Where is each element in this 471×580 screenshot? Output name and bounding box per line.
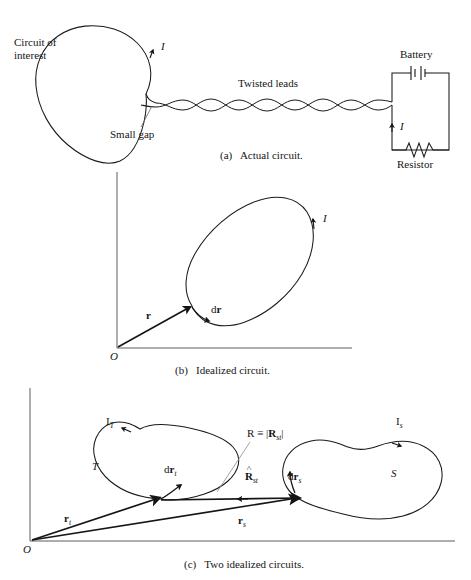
battery-label: Battery bbox=[400, 48, 432, 61]
loop-S bbox=[283, 440, 442, 519]
separation-vector-Rst bbox=[161, 498, 299, 500]
position-vector-label-rt: rt bbox=[64, 512, 71, 525]
hat-accent-icon: ˄ bbox=[246, 463, 251, 473]
caption-a: (a) Actual circuit. bbox=[220, 149, 303, 162]
physics-figure: Circuit of interest I Small gap Twisted … bbox=[0, 0, 471, 580]
figure-vector-layer bbox=[0, 0, 471, 580]
panel-b-graphics bbox=[117, 172, 352, 348]
twisted-leads-label: Twisted leads bbox=[238, 77, 298, 90]
separation-distance-definition: R ≡ |Rst| bbox=[247, 427, 283, 440]
source-circuit-right-top bbox=[392, 73, 449, 150]
loop-T-label: T bbox=[92, 460, 98, 473]
position-vector-label-b: r bbox=[146, 309, 151, 322]
origin-label-c: O bbox=[23, 543, 31, 556]
gap-wire-lower bbox=[141, 105, 156, 107]
unit-separation-vector-label: ˄ R st bbox=[245, 470, 258, 483]
position-vector-r-b bbox=[118, 307, 190, 347]
current-label-T: IT bbox=[106, 415, 114, 428]
element-vector-dr-b bbox=[192, 307, 209, 321]
current-arrow-T bbox=[122, 428, 131, 432]
position-vector-label-rs: rs bbox=[238, 514, 246, 527]
caption-b: (b) Idealized circuit. bbox=[175, 364, 270, 377]
current-arrow-a bbox=[150, 50, 153, 58]
current-label-a: I bbox=[161, 40, 165, 53]
gap-wire-upper bbox=[146, 94, 156, 103]
caption-c: (c) Two idealized circuits. bbox=[184, 558, 304, 571]
element-vector-label-drt: drt bbox=[164, 463, 176, 476]
element-vector-label-drs: drs bbox=[288, 470, 301, 483]
source-circuit-rectangle-left-upper bbox=[392, 73, 407, 102]
R-definition-leader-line bbox=[217, 442, 250, 492]
loop-S-label: S bbox=[391, 467, 397, 480]
current-label-S: Is bbox=[396, 415, 403, 428]
loop-T bbox=[94, 422, 239, 500]
current-label-b: I bbox=[323, 212, 327, 225]
current-arrow-S bbox=[392, 443, 401, 446]
resistor-label: Resistor bbox=[397, 158, 433, 171]
origin-label-b: O bbox=[110, 350, 118, 363]
position-vector-rs bbox=[32, 498, 297, 540]
small-gap-label: Small gap bbox=[110, 128, 154, 141]
element-vector-label-b: dr bbox=[211, 303, 221, 316]
panel-a-graphics bbox=[36, 26, 449, 163]
circuit-of-interest-label: Circuit of interest bbox=[14, 36, 56, 61]
element-vector-drt bbox=[161, 485, 181, 499]
current-label-a-right: I bbox=[400, 120, 404, 133]
battery-symbol bbox=[407, 66, 433, 80]
idealized-loop-b bbox=[186, 197, 313, 326]
position-vector-rt bbox=[32, 498, 159, 540]
